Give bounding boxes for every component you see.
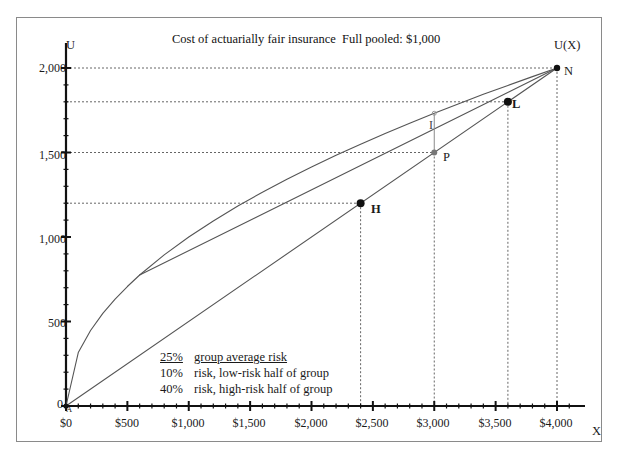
axes-group bbox=[66, 43, 585, 406]
data-point-p bbox=[431, 150, 437, 156]
plot-canvas bbox=[0, 0, 621, 461]
series-chord-a-n bbox=[66, 68, 557, 406]
series-line-n-to-low-wealth bbox=[140, 68, 557, 275]
series-group bbox=[66, 68, 557, 406]
ticks-group bbox=[61, 68, 569, 411]
data-point-l bbox=[504, 98, 512, 106]
data-point-a bbox=[63, 403, 68, 408]
data-point-n bbox=[554, 65, 560, 71]
chart-figure: Cost of actuarially fair insurance Full … bbox=[0, 0, 621, 461]
data-point-h bbox=[357, 199, 365, 207]
